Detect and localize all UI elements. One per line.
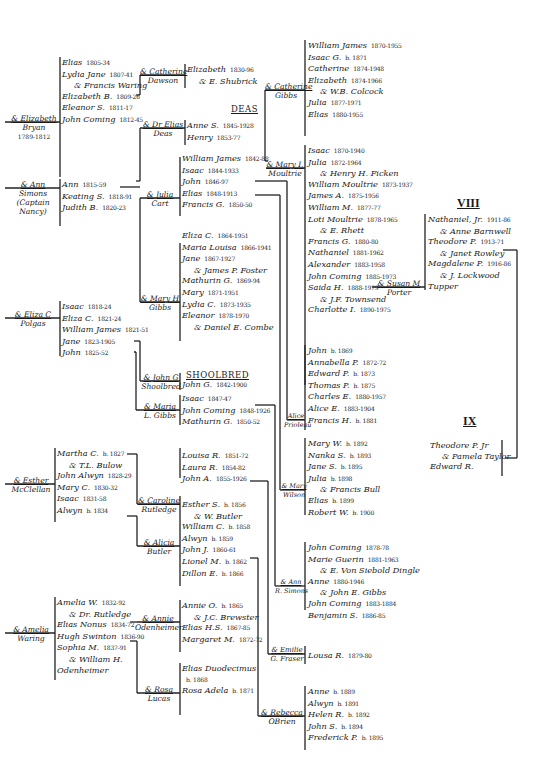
person-dates: 1848-1913 (206, 190, 237, 197)
person-name: & Daniel E. Combe (194, 322, 274, 332)
person-dates: b. 1869 (331, 347, 353, 354)
person-entry: Edward P.b. 1873 (308, 368, 386, 380)
person-name: John Alwyn (57, 470, 104, 480)
person-dates: 1820-23 (102, 204, 126, 211)
family-moultrie-children: Isaac1870-1940Julia1872-1964& Henry H. F… (308, 145, 413, 316)
spouse-entry: & Daniel E. Combe (182, 322, 274, 333)
person-name: Elizabeth B. (62, 91, 112, 101)
person-dates: 1883-1884 (365, 600, 396, 607)
person-dates: 1809-26 (116, 93, 140, 100)
person-entry: Lousa R.1879-80 (308, 650, 372, 662)
person-name: Theodore P. Jr (430, 440, 488, 450)
person-name: & Pamela Taylor (442, 451, 510, 461)
person-entry: John S.b. 1894 (308, 721, 383, 733)
person-dates: b. 1868 (186, 676, 208, 683)
person-name: Martha C. (57, 448, 99, 458)
person-name: Charlotte I. (308, 304, 356, 314)
person-entry: Eliza C.1864-1951 (182, 230, 274, 242)
person-entry: Mathurin G.1869-94 (182, 275, 274, 287)
person-dates: 1873-1935 (220, 301, 251, 308)
person-dates: 1870-1940 (334, 147, 365, 154)
person-dates: b. 1873 (353, 370, 375, 377)
spouse-alice-prioleau: Alice Prioleau (284, 412, 308, 430)
person-dates: 1837-91 (103, 644, 127, 651)
spouse-name: & Esther (6, 476, 56, 485)
person-name: Alice E. (308, 403, 340, 413)
person-entry: Mathurin G.1850-52 (182, 416, 270, 428)
family-maria-gibbs-children: Isaac1847-47John Coming1848-1926Mathurin… (182, 393, 270, 428)
person-entry: Sophia M.1837-91 (57, 642, 144, 654)
person-name: Elias (308, 495, 328, 505)
person-entry: Theodore P. Jr (430, 440, 510, 451)
person-name: John Coming (308, 271, 361, 281)
person-dates: 1880-1955 (332, 111, 363, 118)
person-dates: b. 1881 (356, 417, 378, 424)
family-polgas-children: Isaac1818-24Eliza C.1821-24William James… (62, 301, 149, 359)
family-fraser-children: Lousa R.1879-80 (308, 650, 372, 662)
person-dates: b. 1893 (350, 452, 372, 459)
person-entry: Louisa R.1851-72 (182, 450, 248, 462)
deas-heading: DEAS (231, 104, 258, 114)
person-entry: John Coming1812-45 (62, 114, 147, 126)
person-dates: b. 1834 (86, 507, 108, 514)
person-dates: 1872-72 (363, 359, 387, 366)
person-dates: 1834-72 (111, 621, 135, 628)
spouse-entry: & James P. Foster (182, 265, 274, 276)
person-entry: Charles E.1880-1957 (308, 391, 386, 403)
person-name: John (62, 347, 81, 357)
person-entry: Francis H.b. 1881 (308, 415, 386, 427)
person-dates: 1879-80 (348, 652, 372, 659)
person-name: Amelia W. (57, 597, 98, 607)
person-dates: 1878-1965 (367, 216, 398, 223)
person-entry: Dillon E.b. 1866 (182, 568, 250, 580)
person-entry: Saida H.1888-1979 (308, 282, 413, 294)
family-cart-children: William James1842-88Isaac1844-1933John18… (182, 153, 269, 211)
person-name: Marie Guerin (308, 554, 364, 564)
person-entry: b. 1868 (182, 674, 256, 686)
spouse-surname: Cart (140, 199, 180, 208)
person-entry: John1825-52 (62, 347, 149, 359)
person-name: Elizabeth (187, 64, 226, 74)
person-name: Alwyn (182, 533, 207, 543)
person-dates: 1890-1975 (360, 306, 391, 313)
person-entry: Isaac1847-47 (182, 393, 270, 405)
spouse-name: Alice (284, 412, 308, 421)
person-entry: Anne1880-1946 (308, 576, 420, 588)
person-entry: Alwynb. 1891 (308, 698, 383, 710)
spouse-name: & Rosa (137, 685, 181, 694)
spouse-entry: & W. Butler (182, 511, 250, 522)
person-dates: 1807-41 (110, 71, 134, 78)
person-entry: Helen R.b. 1892 (308, 709, 383, 721)
person-dates: 1832-92 (102, 599, 126, 606)
person-name: Catherine (308, 63, 349, 73)
person-entry: John Coming1883-1884 (308, 598, 420, 610)
spouse-entry: & E. Shubrick (187, 76, 258, 87)
person-dates: b. 1862 (225, 558, 247, 565)
person-dates: 1875-1956 (348, 192, 379, 199)
person-dates: b. 1875 (354, 382, 376, 389)
person-dates: 1845-1928 (223, 122, 254, 129)
person-name: & J.C. Brewster (194, 612, 258, 622)
person-dates: 1848-1926 (239, 407, 270, 414)
person-entry: Odenheimer (57, 665, 144, 676)
person-name: & W. Butler (194, 511, 242, 521)
person-entry: James A.1875-1956 (308, 190, 413, 202)
person-name: Nathaniel, Jr. (428, 214, 483, 224)
person-entry: Margaret M.1872-72 (182, 634, 263, 646)
person-name: & J. Lockwood (440, 270, 500, 280)
person-entry: William James1821-51 (62, 324, 149, 336)
person-dates: 1818-91 (109, 193, 133, 200)
person-dates: 1880-1957 (355, 393, 386, 400)
person-dates: 1872-1964 (331, 159, 362, 166)
person-dates: b. 1892 (346, 440, 368, 447)
person-dates: b. 1894 (341, 723, 363, 730)
person-name: Elias (182, 188, 202, 198)
spouse-name: & John G (140, 373, 182, 382)
generation-viii-label: VIII (457, 196, 480, 211)
person-dates: 1869-94 (236, 277, 260, 284)
spouse-alicia-butler: & Alicia Butler (137, 538, 181, 556)
person-dates: b. 1895 (362, 734, 384, 741)
spouse-name: & Caroline (137, 496, 181, 505)
person-name: Mary W. (308, 438, 342, 448)
spouse-surname: Waring (6, 634, 56, 643)
